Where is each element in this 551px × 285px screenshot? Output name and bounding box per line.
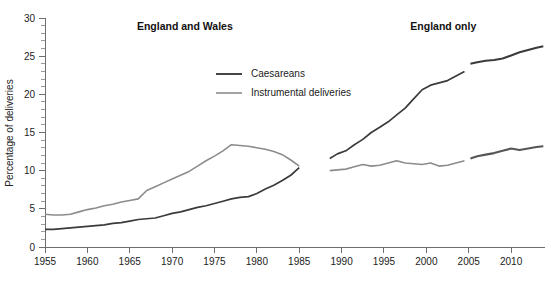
y-tick-label: 15 — [24, 127, 36, 138]
y-axis: 051015202530 — [24, 13, 45, 253]
x-axis: 1955196019651970197519801985199019952000… — [34, 247, 545, 267]
x-tick-label: 1985 — [288, 256, 311, 267]
series-line-instrumental-deliveries — [45, 145, 299, 215]
panel-titles: England and WalesEngland only — [137, 20, 477, 32]
x-tick-label: 1955 — [34, 256, 57, 267]
legend-label: Instrumental deliveries — [251, 87, 351, 98]
legend-item[interactable]: Caesareans — [216, 68, 305, 79]
x-tick-label: 2010 — [500, 256, 523, 267]
x-tick-label: 1980 — [246, 256, 269, 267]
x-tick-label: 1965 — [119, 256, 142, 267]
panel-title: England and Wales — [137, 20, 233, 32]
x-tick-label: 1990 — [330, 256, 353, 267]
x-tick-label: 1960 — [76, 256, 99, 267]
series-line-caesareans — [330, 71, 465, 158]
x-tick-label: 1975 — [203, 256, 226, 267]
x-tick-label: 1995 — [373, 256, 396, 267]
y-tick-label: 5 — [29, 203, 35, 214]
series-line-caesareans — [470, 46, 543, 64]
line-chart: 051015202530 195519601965197019751980198… — [0, 0, 551, 285]
y-tick-label: 20 — [24, 89, 36, 100]
y-tick-label: 30 — [24, 13, 36, 24]
series-line-instrumental-deliveries — [470, 146, 543, 158]
chart-container: 051015202530 195519601965197019751980198… — [0, 0, 551, 285]
y-tick-label: 25 — [24, 51, 36, 62]
y-tick-label: 10 — [24, 165, 36, 176]
x-tick-label: 2005 — [458, 256, 481, 267]
legend-label: Caesareans — [251, 68, 305, 79]
y-tick-label: 0 — [29, 242, 35, 253]
panel-title: England only — [410, 20, 476, 32]
x-tick-label: 1970 — [161, 256, 184, 267]
y-axis-title: Percentage of deliveries — [4, 79, 15, 186]
series-line-caesareans — [45, 168, 299, 230]
legend-item[interactable]: Instrumental deliveries — [216, 87, 351, 98]
series-line-instrumental-deliveries — [330, 161, 465, 171]
x-tick-label: 2000 — [415, 256, 438, 267]
chart-legend[interactable]: CaesareansInstrumental deliveries — [216, 68, 351, 98]
